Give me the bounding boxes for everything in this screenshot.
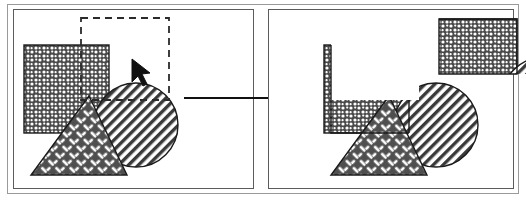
- after-shapes-layer: [269, 10, 515, 190]
- mouse-pointer-icon: [132, 59, 150, 86]
- shape-transformation-figure: Cut selection and move operation on vect…: [0, 0, 526, 201]
- canvas-panel-after[interactable]: [268, 9, 514, 189]
